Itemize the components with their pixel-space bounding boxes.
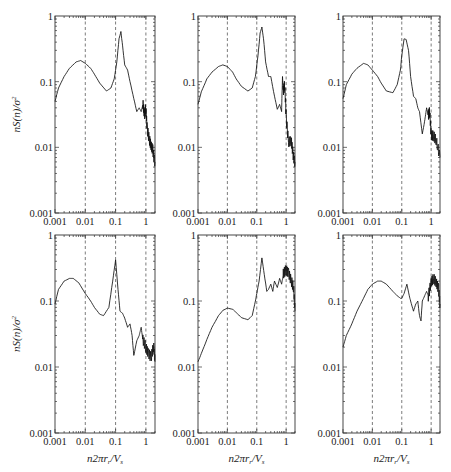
chart-panel-row1-col2: 0.0010.010.110.0010.010.11	[172, 11, 295, 227]
y-tick-label: 1	[336, 11, 341, 22]
x-tick-label: 0.001	[43, 216, 67, 227]
y-tick-label: 0.01	[323, 362, 341, 373]
x-axis-title: n2πrr/Vs	[228, 452, 264, 466]
plot-frame	[343, 235, 440, 433]
spectrum-curve	[198, 258, 295, 362]
x-tick-label: 1	[143, 436, 148, 447]
x-tick-label: 1	[429, 216, 434, 227]
x-tick-label: 0.01	[218, 216, 236, 227]
chart-panel-row2-col1: 0.0010.010.110.0010.010.11nS(n)/σ2n2πrr/…	[10, 230, 155, 466]
x-tick-label: 1	[143, 216, 148, 227]
chart-panel-row1-col3: 0.0010.010.110.0010.010.11	[317, 11, 440, 227]
x-tick-label: 0.01	[363, 436, 381, 447]
x-tick-label: 0.01	[218, 436, 236, 447]
y-tick-label: 0.1	[183, 296, 196, 307]
spectrum-curve	[343, 39, 440, 158]
y-tick-label: 0.1	[328, 77, 341, 88]
spectrum-curve	[198, 27, 295, 167]
x-tick-label: 0.1	[250, 436, 263, 447]
x-tick-label: 1	[284, 216, 289, 227]
y-tick-label: 1	[336, 230, 341, 241]
x-tick-label: 0.001	[331, 436, 355, 447]
spectrum-curve	[55, 260, 155, 362]
chart-panel-row2-col3: 0.0010.010.110.0010.010.11n2πrr/Vs	[317, 230, 440, 466]
y-axis-title: nS(n)/σ2	[10, 96, 23, 132]
x-tick-label: 0.01	[76, 436, 94, 447]
y-tick-label: 0.1	[328, 296, 341, 307]
y-tick-label: 0.1	[40, 296, 53, 307]
x-tick-label: 0.1	[395, 216, 408, 227]
x-axis-title: n2πrr/Vs	[373, 452, 409, 466]
x-tick-label: 0.1	[395, 436, 408, 447]
plot-frame	[198, 16, 295, 213]
x-tick-label: 1	[429, 436, 434, 447]
y-tick-label: 0.1	[183, 77, 196, 88]
y-tick-label: 0.01	[323, 142, 341, 153]
y-tick-label: 1	[48, 230, 53, 241]
panel-grid: 0.0010.010.110.0010.010.11nS(n)/σ20.0010…	[10, 11, 440, 466]
y-tick-label: 0.01	[35, 142, 53, 153]
x-tick-label: 0.001	[186, 216, 210, 227]
y-tick-label: 0.01	[178, 142, 196, 153]
spectrum-curve	[343, 274, 440, 347]
x-axis-title: n2πrr/Vs	[87, 452, 123, 466]
x-tick-label: 0.001	[43, 436, 67, 447]
x-tick-label: 0.001	[331, 216, 355, 227]
x-tick-label: 0.01	[76, 216, 94, 227]
y-tick-label: 0.01	[35, 362, 53, 373]
x-tick-label: 0.1	[109, 216, 122, 227]
spectrum-curve	[55, 32, 155, 167]
plot-frame	[55, 235, 155, 433]
x-tick-label: 0.01	[363, 216, 381, 227]
plot-frame	[55, 16, 155, 213]
chart-panel-row1-col1: 0.0010.010.110.0010.010.11nS(n)/σ2	[10, 11, 155, 227]
y-tick-label: 0.1	[40, 77, 53, 88]
y-tick-label: 0.01	[178, 362, 196, 373]
figure-canvas: 0.0010.010.110.0010.010.11nS(n)/σ20.0010…	[0, 0, 451, 472]
plot-frame	[198, 235, 295, 433]
x-tick-label: 0.1	[250, 216, 263, 227]
y-tick-label: 1	[191, 230, 196, 241]
y-axis-title: nS(n)/σ2	[10, 316, 23, 352]
y-tick-label: 1	[191, 11, 196, 22]
chart-panel-row2-col2: 0.0010.010.110.0010.010.11n2πrr/Vs	[172, 230, 295, 466]
x-tick-label: 0.001	[186, 436, 210, 447]
y-tick-label: 1	[48, 11, 53, 22]
x-tick-label: 0.1	[109, 436, 122, 447]
x-tick-label: 1	[284, 436, 289, 447]
